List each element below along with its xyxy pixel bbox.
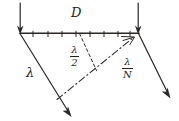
dashed-path-difference-half <box>80 34 97 71</box>
incident-arrow-left <box>17 3 24 34</box>
diagram-canvas <box>0 0 179 121</box>
diffracted-ray-right <box>139 34 171 99</box>
incident-arrow-right <box>135 3 142 34</box>
per-n-denominator: N <box>122 70 133 81</box>
grating-width-label: D <box>71 6 82 19</box>
per-slit-path-difference-label: λ N <box>122 57 133 80</box>
half-wavelength-denominator: 2 <box>70 58 78 69</box>
wavelength-label: λ <box>26 66 34 79</box>
angle-wedge <box>122 37 135 45</box>
half-wavelength-numerator: λ <box>70 45 78 56</box>
per-n-numerator: λ <box>123 57 131 68</box>
half-wavelength-label: λ 2 <box>70 45 79 68</box>
figure-root: D λ λ 2 λ N <box>0 0 179 121</box>
